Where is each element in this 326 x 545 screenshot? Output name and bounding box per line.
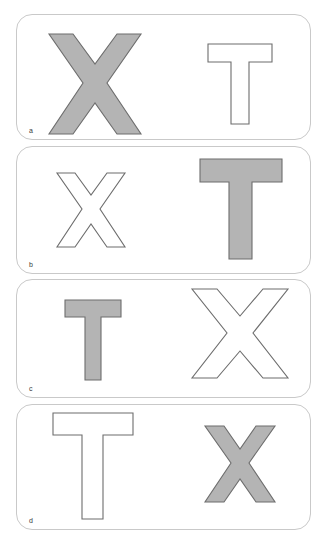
panel-label-a: a [29, 126, 33, 135]
stimulus-panel-d[interactable]: d [16, 404, 311, 530]
shape-x-outline-large [192, 289, 288, 378]
shape-x-outline-medium [57, 173, 125, 247]
stimulus-sheet: a b c [0, 0, 326, 545]
panel-label-b: b [29, 260, 33, 269]
stimulus-panel-b[interactable]: b [16, 146, 311, 274]
stimulus-panel-a[interactable]: a [16, 14, 311, 140]
shape-x-filled-large [49, 34, 141, 134]
shape-t-filled-large [200, 159, 282, 259]
shape-t-outline-large [53, 413, 133, 519]
shape-x-filled-medium [205, 426, 275, 502]
shape-t-filled-small [65, 300, 121, 380]
shape-t-outline-medium [208, 44, 272, 124]
panel-label-d: d [29, 516, 33, 525]
panel-label-c: c [29, 384, 33, 393]
stimulus-panel-c[interactable]: c [16, 279, 311, 398]
